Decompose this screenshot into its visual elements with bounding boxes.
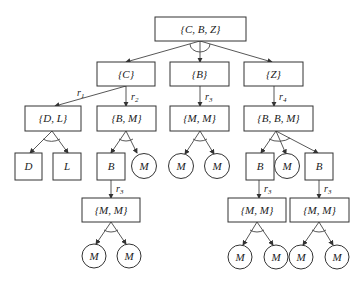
- node-mm: {M, M}: [170, 106, 229, 131]
- rule-label-r4: r4: [279, 91, 287, 104]
- svg-text:{M, M}: {M, M}: [95, 204, 128, 216]
- svg-text:M: M: [331, 251, 342, 263]
- node-m: M: [169, 154, 194, 179]
- svg-text:{B, B, M}: {B, B, M}: [257, 112, 300, 124]
- node-m: M: [289, 245, 313, 269]
- node-bbm: {B, B, M}: [244, 106, 313, 131]
- node-bm: {B, M}: [97, 106, 156, 131]
- svg-text:B: B: [257, 160, 264, 172]
- rule-label-r1: r1: [77, 87, 84, 100]
- svg-text:M: M: [270, 251, 281, 263]
- and-or-tree-diagram: r1 r2 r3 r4 r3 r3 r3 {C, B, Z} {C} {B} {…: [0, 0, 362, 281]
- rule-label-r3: r3: [205, 91, 213, 104]
- svg-text:M: M: [88, 250, 99, 262]
- rule-label-r3: r3: [264, 183, 272, 196]
- svg-text:M: M: [295, 251, 306, 263]
- svg-text:{M, M}: {M, M}: [241, 204, 274, 216]
- svg-text:{D, L}: {D, L}: [39, 112, 68, 124]
- node-b: B: [246, 153, 274, 180]
- svg-text:L: L: [63, 160, 70, 172]
- node-c: {C}: [97, 62, 155, 86]
- node-m: M: [117, 244, 141, 268]
- svg-text:{M, M}: {M, M}: [303, 204, 336, 216]
- node-m: M: [325, 245, 349, 269]
- node-mm: {M, M}: [290, 198, 349, 222]
- rule-label-r3: r3: [116, 183, 124, 196]
- node-m: M: [228, 245, 252, 269]
- node-m: M: [275, 154, 300, 179]
- rule-label-r2: r2: [131, 91, 139, 104]
- node-l: L: [53, 153, 81, 180]
- node-mm: {M, M}: [82, 198, 140, 222]
- svg-text:M: M: [281, 160, 292, 172]
- svg-text:{B, M}: {B, M}: [111, 112, 142, 124]
- node-m: M: [82, 244, 106, 268]
- node-root: {C, B, Z}: [155, 17, 246, 41]
- svg-text:{B}: {B}: [192, 68, 208, 80]
- svg-text:{M, M}: {M, M}: [183, 112, 216, 124]
- svg-text:{C}: {C}: [118, 68, 135, 80]
- node-d: D: [15, 153, 42, 180]
- node-m: M: [132, 154, 157, 179]
- svg-text:M: M: [123, 250, 134, 262]
- svg-text:B: B: [108, 160, 115, 172]
- svg-text:M: M: [211, 160, 222, 172]
- node-dl: {D, L}: [25, 106, 81, 131]
- rule-label-r3: r3: [324, 183, 332, 196]
- svg-text:M: M: [138, 160, 149, 172]
- node-m: M: [264, 245, 288, 269]
- node-mm: {M, M}: [228, 198, 286, 222]
- svg-text:D: D: [24, 160, 33, 172]
- node-b: B: [97, 153, 125, 180]
- svg-text:B: B: [316, 160, 323, 172]
- node-b: {B}: [170, 62, 229, 86]
- node-b: B: [305, 153, 333, 180]
- svg-text:{Z}: {Z}: [266, 68, 282, 80]
- svg-text:M: M: [175, 160, 186, 172]
- node-m: M: [205, 154, 230, 179]
- svg-text:M: M: [234, 251, 245, 263]
- node-z: {Z}: [244, 62, 303, 86]
- svg-text:{C, B, Z}: {C, B, Z}: [181, 23, 222, 35]
